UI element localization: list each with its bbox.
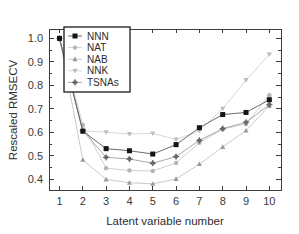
x-tick-label: 1 (56, 195, 62, 207)
y-tick-label: 0.6 (28, 126, 43, 138)
data-point (104, 146, 109, 151)
data-point (150, 160, 156, 166)
data-point (173, 154, 179, 160)
y-axis-title: Rescaled RMSECV (7, 60, 19, 161)
data-point (57, 36, 62, 41)
data-point (220, 144, 225, 149)
y-tick-label: 0.5 (28, 150, 43, 162)
y-tick-label: 0.4 (28, 173, 43, 185)
x-tick-label: 6 (173, 195, 179, 207)
data-point (174, 161, 178, 165)
legend-label-nnn: NNN (87, 31, 109, 42)
x-tick-label: 5 (150, 195, 156, 207)
data-point (244, 110, 249, 115)
figure-container: 12345678910 0.40.50.60.70.80.91.0 NNNNAT… (0, 0, 299, 234)
y-tick-label: 0.7 (28, 103, 43, 115)
data-point (127, 168, 131, 172)
data-point (174, 176, 179, 181)
x-tick-label: 10 (263, 195, 275, 207)
data-point (174, 138, 179, 143)
data-point (220, 112, 225, 117)
data-point (80, 129, 85, 134)
legend-label-nnk: NNK (87, 65, 108, 76)
legend-marker-nnn (73, 34, 78, 39)
data-point (151, 169, 155, 173)
data-point (127, 148, 132, 153)
data-point (267, 97, 272, 102)
legend-label-nab: NAB (87, 54, 108, 65)
y-tick-label: 1.0 (28, 32, 43, 44)
data-point (267, 93, 271, 97)
data-point (126, 156, 132, 162)
x-tick-label: 9 (243, 195, 249, 207)
x-tick-label: 7 (196, 195, 202, 207)
legend-label-nat: NAT (87, 42, 106, 53)
rmsecv-line-chart: 12345678910 0.40.50.60.70.80.91.0 NNNNAT… (0, 0, 299, 234)
x-tick-label: 3 (103, 195, 109, 207)
data-point (197, 162, 202, 167)
data-point (150, 152, 155, 157)
x-axis-title: Latent variable number (106, 215, 224, 227)
y-tick-label: 0.9 (28, 56, 43, 68)
data-point (197, 125, 202, 130)
legend-label-tsnas: TSNAs (87, 77, 119, 88)
x-tick-label: 4 (126, 195, 132, 207)
data-point (174, 142, 179, 147)
chart-legend: NNNNATNABNNKTSNAs (64, 27, 130, 92)
data-point (104, 166, 108, 170)
data-point (80, 157, 85, 162)
legend-marker-nat (73, 45, 77, 49)
x-tick-label: 2 (80, 195, 86, 207)
y-tick-label: 0.8 (28, 79, 43, 91)
x-tick-label: 8 (220, 195, 226, 207)
